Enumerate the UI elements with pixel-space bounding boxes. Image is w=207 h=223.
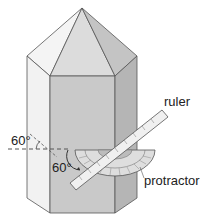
- prism-front-face: [50, 76, 115, 213]
- inner-angle-label: 60°: [52, 160, 72, 175]
- protractor-label: protractor: [144, 173, 200, 188]
- crystal-diagram: ruler protractor 60° 60°: [0, 0, 207, 223]
- ruler-label: ruler: [164, 94, 191, 109]
- outer-angle-label: 60°: [11, 133, 31, 148]
